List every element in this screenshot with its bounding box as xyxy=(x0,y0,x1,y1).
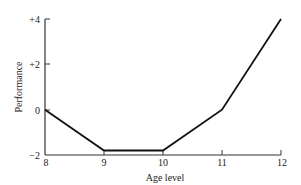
y-tick-label: 0 xyxy=(35,105,40,116)
x-tick-labels: 8 9 10 11 12 xyxy=(44,157,288,168)
y-tick-labels: +4 +2 0 −2 xyxy=(29,14,40,161)
x-tick-label: 10 xyxy=(158,157,168,168)
x-tick-label: 11 xyxy=(217,157,227,168)
x-tick-label: 9 xyxy=(102,157,107,168)
y-axis-title: Performance xyxy=(13,61,24,113)
x-axis-title: Age level xyxy=(146,172,185,183)
y-tick-label: −2 xyxy=(29,150,40,161)
y-tick-label: +4 xyxy=(29,14,40,25)
x-tick-label: 8 xyxy=(44,157,49,168)
x-tick-label: 12 xyxy=(277,157,287,168)
performance-line xyxy=(45,19,281,151)
y-tick-label: +2 xyxy=(29,59,40,70)
line-chart: +4 +2 0 −2 8 9 10 11 12 Age level Perfor… xyxy=(0,0,301,185)
